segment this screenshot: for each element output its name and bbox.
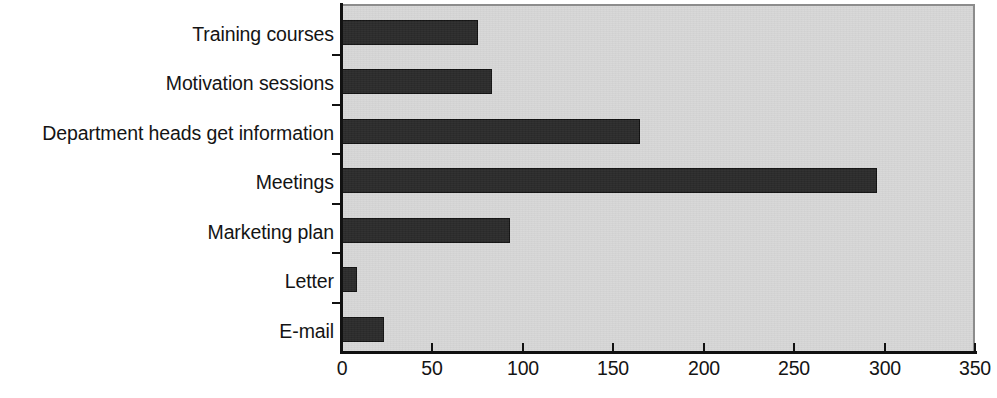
plot-area [342,4,975,352]
bar-marketing-plan [342,218,510,243]
x-axis-tick-100 [522,343,524,353]
y-axis-tick-4 [332,252,341,254]
x-axis-tick-350 [974,343,976,353]
y-axis-label-training-courses: Training courses [0,22,334,47]
bar-chart: Training courses Motivation sessions Dep… [0,0,997,398]
y-axis-tick-3 [332,203,341,205]
bar-meetings [342,168,877,193]
x-axis-tick-50 [431,343,433,353]
x-axis-tick-label-250: 250 [778,357,810,380]
x-axis-tick-label-200: 200 [688,357,720,380]
x-axis-tick-300 [884,343,886,353]
y-axis-category-labels: Training courses Motivation sessions Dep… [0,4,334,352]
bar-motivation-sessions [342,69,492,94]
y-axis-label-marketing-plan: Marketing plan [0,220,334,245]
x-axis-tick-label-100: 100 [507,357,539,380]
y-axis-tick-0 [332,54,341,56]
y-axis-label-motivation-sessions: Motivation sessions [0,71,334,96]
x-axis-tick-label-50: 50 [421,357,442,380]
y-axis-tick-5 [332,302,341,304]
x-axis-tick-label-0: 0 [337,357,348,380]
x-axis-tick-label-300: 300 [869,357,901,380]
bar-department-heads-get-information [342,119,640,144]
y-axis-label-letter: Letter [0,269,334,294]
y-axis-tick-1 [332,104,341,106]
y-axis-tick-2 [332,153,341,155]
x-axis-tick-150 [612,343,614,353]
x-axis-tick-label-350: 350 [959,357,991,380]
x-axis-tick-250 [793,343,795,353]
x-axis-tick-label-150: 150 [597,357,629,380]
y-axis-label-department-heads-get-information: Department heads get information [0,121,334,146]
bar-letter [342,267,357,292]
bar-e-mail [342,317,384,342]
bar-training-courses [342,20,478,45]
x-axis-line [340,351,977,354]
x-axis-tick-200 [703,343,705,353]
x-axis-tick-0 [341,343,343,353]
y-axis-label-meetings: Meetings [0,170,334,195]
y-axis-label-e-mail: E-mail [0,319,334,344]
